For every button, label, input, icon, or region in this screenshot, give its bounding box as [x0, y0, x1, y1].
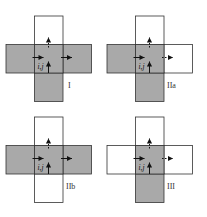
panel-IIa-cell-bottom: [136, 73, 165, 102]
panel-III-cell-left: [107, 146, 136, 175]
panel-IIb-cell-bottom: [35, 174, 64, 203]
panel-IIa-cell-index-label: i,j: [139, 62, 145, 71]
panel-IIb-cell-left: [6, 146, 35, 175]
panel-IIb-cell-index-label: i,j: [38, 163, 44, 172]
panel-I-cell-bottom: [35, 73, 64, 102]
panel-label-IIa: IIa: [167, 81, 176, 90]
panel-I-cell-left: [6, 45, 35, 74]
panel-III-cell-index-label: i,j: [139, 163, 145, 172]
panel-label-IIb: IIb: [66, 182, 75, 191]
panel-I-cell-index-label: i,j: [38, 62, 44, 71]
panel-IIa-cell-left: [107, 45, 136, 74]
panel-label-I: I: [68, 81, 71, 90]
panel-label-III: III: [167, 182, 175, 191]
panel-III-cell-bottom: [136, 174, 165, 203]
diagram-canvas: i,ji,ji,ji,j: [0, 0, 207, 217]
